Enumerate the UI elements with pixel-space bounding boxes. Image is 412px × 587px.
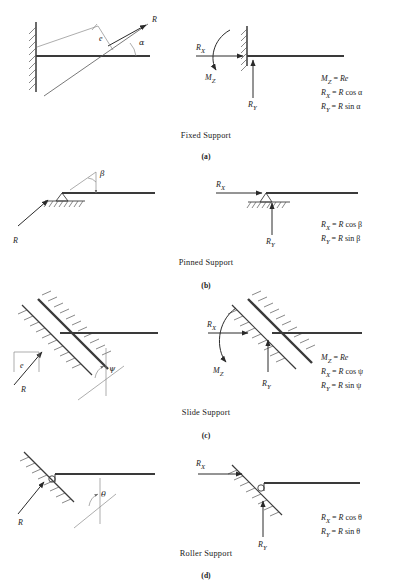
- panel-d-rx-subscript: X: [201, 463, 205, 470]
- panel-d-angle-label: θ: [101, 490, 106, 499]
- panel-a-angle-label: α: [139, 38, 144, 47]
- panel-c-ry-subscript: Y: [267, 383, 271, 390]
- panel-a-caption: Fixed Support: [0, 131, 412, 140]
- equation-row: RX = R cos θ: [321, 512, 362, 526]
- panel-d-equations: RX = R cos θ RY = R sin θ: [321, 512, 362, 540]
- panel-b-caption: Pinned Support: [0, 258, 412, 267]
- panel-c-caption: Slide Support: [0, 408, 412, 417]
- panel-a-mz-label: MZ: [205, 73, 215, 84]
- panel-c-loaded-diagram: [14, 291, 158, 400]
- panel-a-mz-subscript: Z: [212, 77, 216, 84]
- panel-a-equations: MZ = Re RX = R cos α RY = R sin α: [321, 73, 362, 115]
- panel-d-caption: Roller Support: [0, 549, 412, 558]
- panel-a-ry-subscript: Y: [253, 104, 257, 111]
- panel-c-mz-label: MZ: [213, 366, 223, 377]
- panel-b-loaded-diagram: [18, 172, 155, 226]
- equation-row: MZ = Re: [321, 352, 363, 366]
- equation-row: RX = R cos β: [321, 219, 362, 233]
- panel-b-force-label: R: [13, 236, 18, 245]
- panel-b-rx-subscript: X: [221, 184, 225, 191]
- equation-row: MZ = Re: [321, 73, 362, 87]
- panel-c-rx-label: RX: [207, 320, 216, 331]
- panel-c-mz-subscript: Z: [220, 370, 224, 377]
- panel-c-angle-label: ψ: [109, 364, 115, 373]
- panel-c-eccentricity-label: e: [20, 361, 24, 370]
- panel-b-letter: (b): [0, 281, 412, 290]
- equation-row: RY = R sin β: [321, 233, 362, 247]
- panel-c-letter: (c): [0, 431, 412, 440]
- panel-d-rx-label: RX: [196, 459, 205, 470]
- panel-b-ry-label: RY: [266, 237, 275, 248]
- equation-row: RY = R sin ψ: [321, 380, 363, 394]
- panel-a-rx-label: RX: [196, 43, 205, 54]
- equation-row: RX = R cos ψ: [321, 366, 363, 380]
- panel-a-loaded-diagram: [29, 22, 150, 96]
- panel-a-force-label: R: [152, 15, 157, 24]
- panel-c-ry-label: RY: [262, 379, 271, 390]
- equation-row: RY = R sin θ: [321, 526, 362, 540]
- panel-b-angle-label: β: [100, 169, 105, 178]
- panel-a-ry-label: RY: [248, 100, 257, 111]
- equation-row: RY = R sin α: [321, 101, 362, 115]
- panel-b-ry-subscript: Y: [271, 241, 275, 248]
- panel-b-rx-label: RX: [216, 180, 225, 191]
- panel-b-equations: RX = R cos β RY = R sin β: [321, 219, 362, 247]
- panel-c-rx-subscript: X: [212, 324, 216, 331]
- panel-a-rx-subscript: X: [201, 47, 205, 54]
- panel-c-force-label: R: [21, 385, 26, 394]
- panel-a-mz-symbol: M: [205, 73, 212, 82]
- support-reactions-figure: R e α RX MZ RY MZ = Re RX = R cos α RY =…: [0, 0, 412, 587]
- equation-row: RX = R cos α: [321, 87, 362, 101]
- panel-a-letter: (a): [0, 152, 412, 161]
- panel-d-letter: (d): [0, 571, 412, 580]
- panel-d-force-label: R: [18, 518, 23, 527]
- panel-c-mz-symbol: M: [213, 366, 220, 375]
- panel-a-eccentricity-label: e: [99, 34, 103, 43]
- panel-d-loaded-diagram: [18, 452, 155, 528]
- panel-c-equations: MZ = Re RX = R cos ψ RY = R sin ψ: [321, 352, 363, 394]
